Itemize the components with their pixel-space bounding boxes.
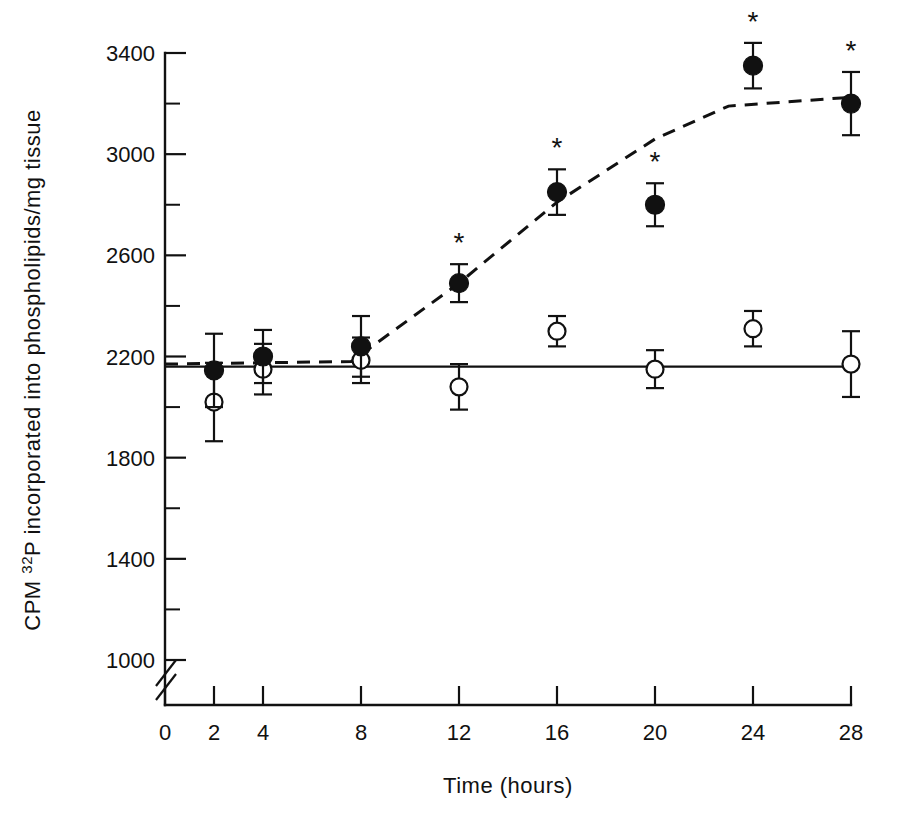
data-point-open <box>647 361 664 378</box>
data-point-filled <box>352 337 371 356</box>
series-treated <box>205 43 861 407</box>
significance-star: * <box>650 146 661 177</box>
y-tick-label: 2600 <box>106 243 155 268</box>
x-tick-label: 0 <box>159 720 171 745</box>
series-control <box>205 311 860 441</box>
y-tick-group <box>165 53 186 660</box>
data-point-filled <box>842 94 861 113</box>
y-tick-label: 2200 <box>106 345 155 370</box>
data-point-filled <box>205 361 224 380</box>
significance-star: * <box>552 132 563 163</box>
x-tick-label: 8 <box>355 720 367 745</box>
x-tick-label: 2 <box>208 720 220 745</box>
x-tick-label: 16 <box>545 720 569 745</box>
y-tick-label: 1400 <box>106 547 155 572</box>
y-tick-label: 1800 <box>106 446 155 471</box>
y-tick-label: 3000 <box>106 142 155 167</box>
chart-canvas: 1000140018002200260030003400 02481216202… <box>0 0 900 834</box>
figure-container: 1000140018002200260030003400 02481216202… <box>0 0 900 834</box>
data-point-filled <box>254 347 273 366</box>
data-point-open <box>549 323 566 340</box>
x-tick-label: 4 <box>257 720 269 745</box>
significance-star: * <box>846 35 857 66</box>
x-tick-label: 12 <box>447 720 471 745</box>
significance-star: * <box>454 227 465 258</box>
significance-star: * <box>748 6 759 37</box>
x-tick-label-group: 02481216202428 <box>159 720 863 745</box>
y-axis-title-suffix: P incorporated into phospholipids/mg tis… <box>20 109 45 556</box>
x-axis-title: Time (hours) <box>443 773 573 798</box>
data-point-open <box>843 356 860 373</box>
data-point-open <box>745 320 762 337</box>
y-tick-label: 1000 <box>106 648 155 673</box>
y-tick-label: 3400 <box>106 41 155 66</box>
x-tick-group <box>165 686 851 705</box>
data-point-filled <box>548 183 567 202</box>
data-point-filled <box>744 56 763 75</box>
data-point-filled <box>646 195 665 214</box>
y-axis-title-prefix: CPM <box>20 574 45 631</box>
data-point-filled <box>450 274 469 293</box>
x-tick-label: 20 <box>643 720 667 745</box>
y-axis-title-superscript: 32 <box>18 556 35 574</box>
y-axis-title: CPM 32P incorporated into phospholipids/… <box>18 109 45 630</box>
x-tick-label: 24 <box>741 720 765 745</box>
x-tick-label: 28 <box>839 720 863 745</box>
y-tick-label-group: 1000140018002200260030003400 <box>106 41 155 673</box>
data-point-open <box>451 378 468 395</box>
